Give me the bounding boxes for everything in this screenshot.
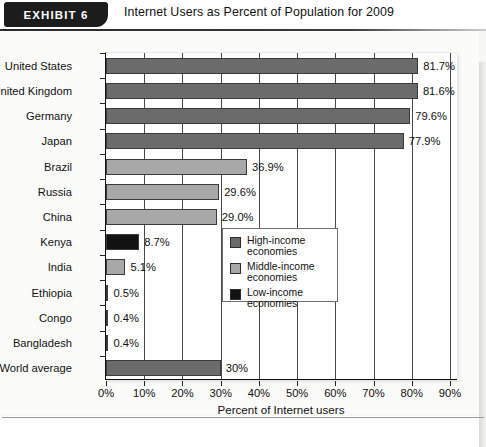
figure-page-surface: 0%10%20%30%40%50%60%70%80%90%United Stat… xyxy=(0,31,479,414)
bar xyxy=(106,310,108,326)
x-axis-tick xyxy=(182,381,183,386)
legend-label-line-2: economies xyxy=(247,246,305,257)
x-axis-tick-label: 10% xyxy=(124,387,164,399)
y-axis-category-label: Congo xyxy=(39,312,72,324)
x-axis-tick-label: 20% xyxy=(162,387,202,399)
x-axis-tick xyxy=(259,381,260,386)
exhibit-number-badge: EXHIBIT 6 xyxy=(4,2,108,27)
legend-swatch-low-income xyxy=(230,289,241,300)
y-axis-category-label: Ethiopia xyxy=(32,287,72,299)
gridline-70 xyxy=(374,53,375,379)
bar-value-label: 81.7% xyxy=(423,58,455,74)
y-axis-category-label: United States xyxy=(5,60,72,72)
y-axis-tick xyxy=(100,356,106,357)
bar xyxy=(106,83,418,99)
y-axis-category-label: World average xyxy=(0,362,72,374)
bar-value-label: 0.4% xyxy=(113,310,139,326)
x-axis-tick xyxy=(412,381,413,386)
legend-label-line-1: Middle-income xyxy=(247,261,315,272)
x-axis-tick-label: 0% xyxy=(86,387,126,399)
y-axis-tick xyxy=(100,331,106,332)
x-axis-tick xyxy=(450,381,451,386)
bar-value-label: 36.9% xyxy=(252,159,284,175)
bar xyxy=(106,108,410,124)
bar xyxy=(106,184,219,200)
bar xyxy=(106,259,125,275)
x-axis-tick xyxy=(106,381,107,386)
bar-value-label: 77.9% xyxy=(409,133,441,149)
x-axis-tick xyxy=(335,381,336,386)
y-axis-tick xyxy=(100,204,106,205)
chart-legend: High-incomeeconomiesMiddle-incomeeconomi… xyxy=(222,228,338,302)
legend-label: Low-incomeeconomies xyxy=(247,287,303,310)
x-axis-tick-label: 30% xyxy=(201,387,241,399)
y-axis-tick xyxy=(100,255,106,256)
x-axis-tick xyxy=(297,381,298,386)
bar-value-label: 30% xyxy=(226,360,248,376)
bar-value-label: 29.0% xyxy=(222,209,254,225)
page-edge-shadow xyxy=(479,62,486,447)
gridline-50 xyxy=(297,53,298,379)
bar xyxy=(106,335,108,351)
x-axis-tick-label: 90% xyxy=(430,387,470,399)
bar xyxy=(106,360,221,376)
x-axis-tick xyxy=(374,381,375,386)
bar xyxy=(106,209,217,225)
x-axis-tick-label: 40% xyxy=(239,387,279,399)
legend-label: High-incomeeconomies xyxy=(247,235,305,258)
legend-item: High-incomeeconomies xyxy=(230,235,331,258)
x-axis-tick-label: 50% xyxy=(277,387,317,399)
bar-value-label: 81.6% xyxy=(423,83,455,99)
x-axis-tick-label: 80% xyxy=(392,387,432,399)
y-axis-category-label: Germany xyxy=(26,110,72,122)
y-axis-tick xyxy=(100,154,106,155)
legend-swatch-high-income xyxy=(230,237,241,248)
bar xyxy=(106,133,404,149)
legend-label-line-2: economies xyxy=(247,298,303,309)
legend-label-line-1: High-income xyxy=(247,235,305,246)
y-axis-tick xyxy=(100,103,106,104)
x-axis-tick-label: 60% xyxy=(315,387,355,399)
x-axis-tick-label: 70% xyxy=(354,387,394,399)
y-axis-category-label: Bangladesh xyxy=(13,337,72,349)
y-axis-category-label: Brazil xyxy=(44,161,72,173)
y-axis-tick xyxy=(100,280,106,281)
x-axis-tick xyxy=(221,381,222,386)
bar-chart-plot-area: 0%10%20%30%40%50%60%70%80%90%United Stat… xyxy=(105,52,457,380)
gridline-60 xyxy=(335,53,336,379)
x-axis-title: Percent of Internet users xyxy=(105,403,457,416)
y-axis-tick xyxy=(100,230,106,231)
bar xyxy=(106,159,247,175)
source-divider xyxy=(2,417,484,418)
y-axis-category-label: Russia xyxy=(38,186,72,198)
gridline-80 xyxy=(412,53,413,379)
legend-swatch-middle-income xyxy=(230,263,241,274)
bar-value-label: 29.6% xyxy=(224,184,256,200)
bar xyxy=(106,285,108,301)
legend-label-line-2: economies xyxy=(247,272,315,283)
bar xyxy=(106,58,418,74)
legend-label-line-1: Low-income xyxy=(247,287,303,298)
gridline-90 xyxy=(450,53,451,379)
figure-body: 0%10%20%30%40%50%60%70%80%90%United Stat… xyxy=(0,31,486,416)
y-axis-category-label: United Kingdom xyxy=(0,85,72,97)
bar-value-label: 5.1% xyxy=(130,259,156,275)
bar-value-label: 8.7% xyxy=(144,234,170,250)
bar xyxy=(106,234,139,250)
legend-label: Middle-incomeeconomies xyxy=(247,261,315,284)
legend-item: Middle-incomeeconomies xyxy=(230,261,331,284)
y-axis-tick xyxy=(100,305,106,306)
bar-value-label: 79.6% xyxy=(415,108,447,124)
y-axis-category-label: India xyxy=(48,261,72,273)
bar-value-label: 0.5% xyxy=(113,285,139,301)
y-axis-tick xyxy=(100,179,106,180)
x-axis-tick xyxy=(144,381,145,386)
exhibit-title: Internet Users as Percent of Population … xyxy=(124,5,394,19)
y-axis-category-label: Japan xyxy=(42,135,72,147)
bar-value-label: 0.4% xyxy=(113,335,139,351)
y-axis-category-label: Kenya xyxy=(40,236,72,248)
y-axis-category-label: China xyxy=(43,211,72,223)
legend-item: Low-incomeeconomies xyxy=(230,287,331,310)
y-axis-tick xyxy=(100,78,106,79)
y-axis-tick xyxy=(100,53,106,54)
